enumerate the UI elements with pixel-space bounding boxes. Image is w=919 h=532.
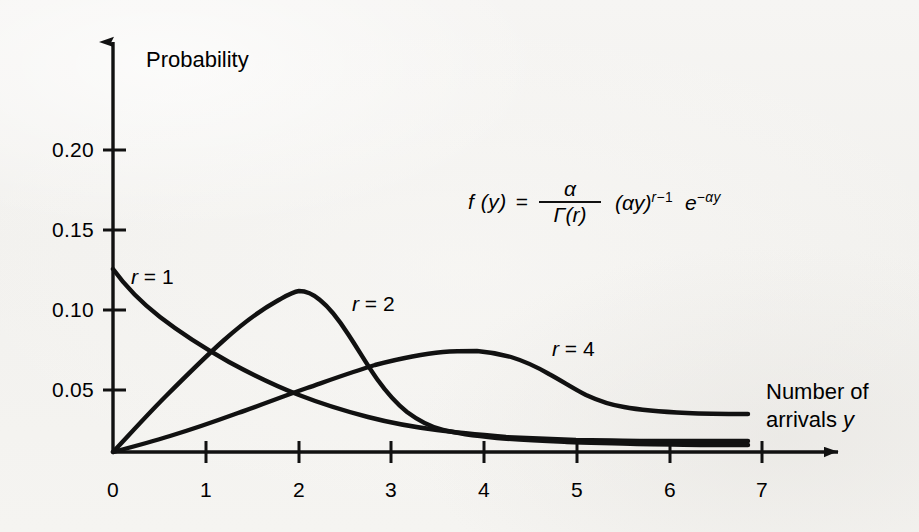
x-tick-label-0: 0 bbox=[107, 478, 119, 502]
curve-label-r-2-var: r bbox=[352, 292, 359, 315]
x-tick-label-3: 3 bbox=[385, 478, 397, 502]
curve-label-r-1: r = 1 bbox=[131, 265, 174, 289]
x-axis-title-variable: y bbox=[843, 407, 854, 432]
formula-exp-term: e−αy bbox=[680, 189, 721, 215]
formula-denominator: Γ(r) bbox=[547, 203, 592, 226]
formula-exp-exponent: −αy bbox=[697, 189, 721, 205]
formula-exp-y: y bbox=[714, 189, 721, 205]
curve-r-4 bbox=[113, 351, 748, 452]
formula-exp-minus: − bbox=[697, 189, 706, 205]
x-tick-label-4: 4 bbox=[478, 478, 490, 502]
formula-exponent-one: 1 bbox=[665, 189, 673, 205]
formula-fraction: α Γ(r) bbox=[537, 178, 603, 226]
density-formula: f (y) = α Γ(r) (αy)r−1 e−αy bbox=[468, 178, 721, 226]
formula-term-y: y bbox=[634, 191, 645, 214]
curve-label-r-4-num: 4 bbox=[583, 337, 595, 360]
formula-power-term: (αy)r−1 bbox=[610, 189, 673, 215]
formula-term-open: ( bbox=[615, 191, 622, 214]
curve-label-r-4-eq: = bbox=[565, 337, 577, 360]
x-tick-label-5: 5 bbox=[571, 478, 583, 502]
formula-exponent-minus: − bbox=[656, 189, 665, 205]
y-tick-label-0.05: 0.05 bbox=[22, 378, 94, 402]
formula-term-alpha: α bbox=[622, 191, 634, 214]
curve-label-r-1-var: r bbox=[131, 265, 138, 288]
x-axis-title-line2: arrivals bbox=[766, 407, 837, 432]
formula-numerator-alpha: α bbox=[554, 178, 586, 201]
formula-lhs: f (y) bbox=[468, 190, 507, 214]
formula-denom-close: ) bbox=[579, 203, 586, 226]
y-axis-title: Probability bbox=[146, 47, 249, 73]
x-tick-label-2: 2 bbox=[293, 478, 305, 502]
curve-label-r-2-eq: = bbox=[365, 292, 377, 315]
curve-label-r-1-num: 1 bbox=[162, 265, 174, 288]
formula-gamma: Γ bbox=[553, 203, 565, 226]
gamma-distribution-figure: 0.20 0.15 0.10 0.05 0 1 2 3 4 5 6 7 Prob… bbox=[0, 0, 919, 532]
formula-equals: = bbox=[514, 190, 530, 214]
y-tick-label-0.20: 0.20 bbox=[22, 138, 94, 162]
curve-label-r-4: r = 4 bbox=[552, 337, 595, 361]
formula-lhs-var: y bbox=[488, 190, 499, 213]
formula-lhs-close: ) bbox=[499, 190, 507, 213]
x-axis-title: Number of arrivals y bbox=[766, 378, 869, 434]
curve-label-r-2-num: 2 bbox=[383, 292, 395, 315]
curve-label-r-1-eq: = bbox=[144, 265, 156, 288]
x-tick-label-6: 6 bbox=[664, 478, 676, 502]
curve-label-r-2: r = 2 bbox=[352, 292, 395, 316]
x-tick-label-7: 7 bbox=[756, 478, 768, 502]
curve-label-r-4-var: r bbox=[552, 337, 559, 360]
curve-r-2 bbox=[113, 291, 748, 452]
y-tick-label-0.15: 0.15 bbox=[22, 218, 94, 242]
formula-exponent: r−1 bbox=[651, 189, 673, 205]
formula-exp-e: e bbox=[685, 191, 697, 214]
formula-exp-alpha: α bbox=[705, 189, 713, 205]
x-axis-title-line1: Number of bbox=[766, 379, 869, 404]
y-tick-label-0.10: 0.10 bbox=[22, 298, 94, 322]
x-tick-label-1: 1 bbox=[200, 478, 212, 502]
